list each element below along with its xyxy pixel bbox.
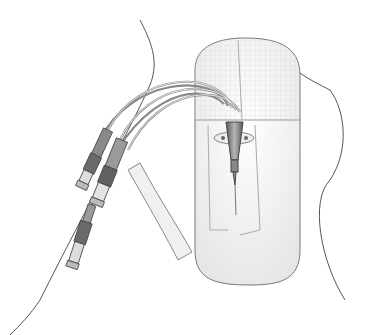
adhesive-strip [128, 163, 192, 260]
luer-connectors [66, 127, 129, 269]
catheter-illustration [0, 0, 366, 335]
transparent-dressing [195, 38, 300, 285]
illustration-svg [0, 0, 366, 335]
